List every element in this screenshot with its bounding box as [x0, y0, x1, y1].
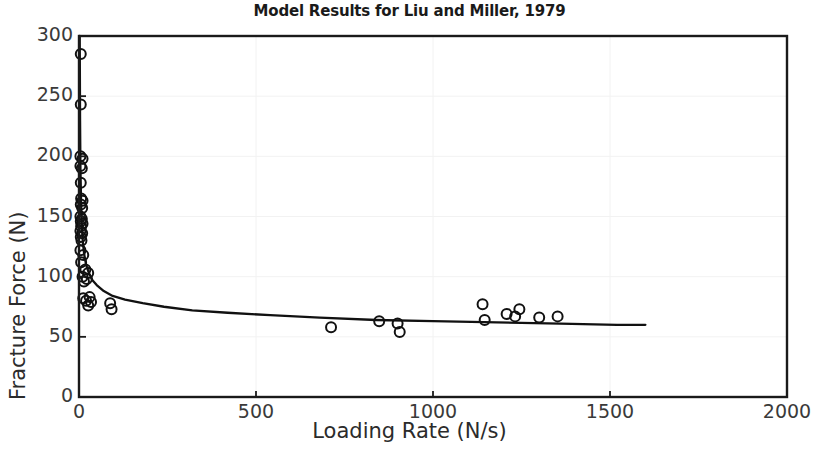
y-tick-label: 300 [1, 23, 73, 45]
x-tick-label: 1000 [393, 400, 473, 422]
y-tick-label: 200 [1, 143, 73, 165]
plot-canvas [0, 0, 819, 461]
x-tick-label: 1500 [570, 400, 650, 422]
y-tick-label: 250 [1, 83, 73, 105]
gridlines [79, 36, 787, 397]
x-tick-label: 2000 [747, 400, 819, 422]
y-tick-label: 100 [1, 264, 73, 286]
x-tick-label: 500 [216, 400, 296, 422]
chart-figure: Model Results for Liu and Miller, 1979 L… [0, 0, 819, 461]
scatter-points [75, 49, 562, 337]
y-tick-label: 50 [1, 324, 73, 346]
y-tick-label: 150 [1, 204, 73, 226]
model-fit-curve [80, 36, 646, 325]
x-axis-label: Loading Rate (N/s) [0, 419, 819, 443]
y-tick-label: 0 [1, 384, 73, 406]
y-axis-label: Fracture Force (N) [6, 212, 30, 401]
